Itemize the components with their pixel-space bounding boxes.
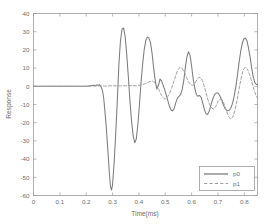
chart-legend: p0 p1: [200, 167, 255, 191]
chart-figure: 403020100-10-20-30-40-50-60 00.10.20.30.…: [0, 0, 274, 224]
y-tick-label: -10: [21, 101, 31, 108]
y-tick-label: 30: [23, 28, 30, 35]
y-tick-label: -30: [21, 137, 31, 144]
y-tick-label: -20: [21, 119, 31, 126]
x-tick-label: 0.2: [82, 198, 91, 205]
legend-label-p1: p1: [233, 180, 240, 187]
y-tick-label: -50: [21, 174, 31, 181]
x-tick-label: 0.6: [187, 198, 196, 205]
legend-box: [200, 167, 255, 191]
response-time-line-chart: 403020100-10-20-30-40-50-60 00.10.20.30.…: [0, 0, 274, 224]
x-tick-label: 0.8: [240, 198, 249, 205]
y-tick-label: -40: [21, 155, 31, 162]
x-tick-label: 0: [32, 198, 36, 205]
legend-label-p0: p0: [233, 170, 240, 177]
y-tick-label: 20: [23, 46, 30, 53]
x-tick-label: 0.3: [108, 198, 117, 205]
x-tick-label: 0.4: [135, 198, 144, 205]
y-axis-title: Response: [5, 89, 13, 119]
y-tick-label: 40: [23, 10, 30, 17]
y-tick-label: -60: [21, 192, 31, 199]
x-tick-label: 0.7: [214, 198, 223, 205]
x-tick-label: 0.5: [161, 198, 170, 205]
y-tick-label: 0: [26, 83, 30, 90]
y-tick-label: 10: [23, 64, 30, 71]
x-tick-label: 0.1: [56, 198, 65, 205]
x-axis-title: Time(ms): [131, 210, 159, 218]
